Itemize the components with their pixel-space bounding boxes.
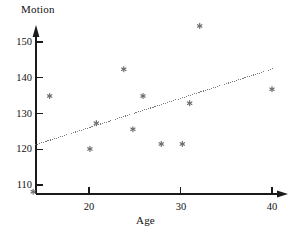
tick-marks-group (36, 42, 272, 194)
data-point (159, 141, 163, 146)
x-tick-label-20: 20 (77, 201, 101, 212)
data-point (122, 67, 126, 72)
data-point (47, 93, 51, 98)
y-axis-title: Motion (21, 3, 55, 15)
y-tick-label-130: 130 (8, 108, 32, 119)
data-point (180, 141, 184, 146)
data-point (270, 87, 274, 92)
data-point (141, 93, 145, 98)
data-point (88, 146, 92, 151)
x-axis-title: Age (136, 214, 155, 226)
axes-group (33, 25, 288, 197)
y-tick-label-140: 140 (8, 72, 32, 83)
x-tick-label-40: 40 (260, 201, 284, 212)
y-tick-label-120: 120 (8, 143, 32, 154)
data-points-group (31, 23, 274, 194)
x-tick-label-30: 30 (169, 201, 193, 212)
data-point (131, 127, 135, 132)
scatter-plot-figure: Motion Age 110 120 130 140 150 20 30 40 (0, 0, 290, 233)
data-point (31, 189, 35, 194)
data-point (187, 101, 191, 106)
y-tick-label-110: 110 (8, 179, 32, 190)
y-tick-label-150: 150 (8, 36, 32, 47)
data-point (198, 23, 202, 28)
data-point (94, 121, 98, 126)
trend-line (35, 69, 273, 145)
plot-canvas (0, 0, 290, 233)
